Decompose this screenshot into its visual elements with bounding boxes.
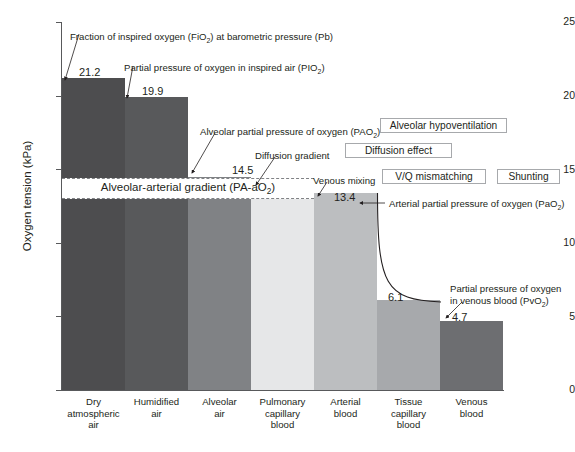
y-tick-0 (56, 390, 61, 391)
category-label-dry-atmospheric-air: Dry atmospheric air (62, 396, 125, 431)
bar-value-humidified-air: 19.9 (142, 85, 163, 97)
y-tick-15 (56, 169, 61, 170)
cause-box-vq-mismatching[interactable]: V/Q mismatching (382, 169, 486, 184)
cat-3-line1: Pulmonary (251, 396, 314, 408)
bar-value-venous-blood: 4.7 (452, 311, 467, 323)
bar-value-arterial-blood: 13.4 (334, 191, 355, 203)
annotation-diffusion-gradient: Diffusion gradient (255, 150, 330, 162)
cat-3-line2: capillary (251, 408, 314, 420)
annotation-pvo2-line2: in venous blood (PvO2) (450, 295, 549, 311)
y-tick-10 (56, 243, 61, 244)
category-label-venous-blood: Venous blood (440, 396, 503, 419)
cat-4-line1: Arterial (314, 396, 377, 408)
cat-3-line3: blood (251, 419, 314, 431)
bar-dry-atmospheric-air (62, 78, 125, 390)
bar-pulmonary-capillary-blood (251, 185, 314, 390)
cat-1-line1: Humidified (125, 396, 188, 408)
category-label-arterial-blood: Arterial blood (314, 396, 377, 419)
y-tick-label-25: 25 (529, 16, 575, 26)
cat-1-line2: air (125, 408, 188, 420)
cat-5-line1: Tissue (377, 396, 440, 408)
cause-box-alveolar-hypoventilation[interactable]: Alveolar hypoventilation (380, 118, 507, 133)
cat-2-line1: Alveolar (188, 396, 251, 408)
alveolar-arterial-gradient-label: Alveolar-arterial gradient (PA-aO2) (101, 181, 275, 196)
annotation-pvo2-line1: Partial pressure of oxygen (450, 283, 561, 295)
annotation-pio2: Partial pressure of oxygen in inspired a… (124, 62, 325, 78)
category-label-alveolar-air: Alveolar air (188, 396, 251, 419)
y-tick-20 (56, 96, 61, 97)
x-axis-line (61, 390, 504, 391)
cause-box-diffusion-effect[interactable]: Diffusion effect (345, 143, 452, 158)
bar-value-tissue-capillary-blood: 6.1 (388, 291, 403, 303)
alveolar-arterial-gradient-band: Alveolar-arterial gradient (PA-aO2) (62, 178, 314, 199)
category-label-tissue-capillary-blood: Tissue capillary blood (377, 396, 440, 431)
bar-value-dry-atmospheric-air: 21.2 (79, 66, 100, 78)
bar-arterial-blood (314, 193, 377, 390)
cat-5-line2: capillary (377, 408, 440, 420)
y-tick-label-0: 0 (529, 384, 575, 394)
bar-alveolar-air (188, 177, 251, 390)
annotation-pao2-arterial: Arterial partial pressure of oxygen (PaO… (389, 198, 565, 214)
y-tick-label-20: 20 (529, 90, 575, 100)
annotation-pao2-alveolar: Alveolar partial pressure of oxygen (PAO… (200, 126, 380, 142)
y-tick-label-5: 5 (529, 311, 575, 321)
bar-tissue-capillary-blood (377, 300, 440, 390)
y-tick-label-10: 10 (529, 237, 575, 247)
cat-5-line3: blood (377, 419, 440, 431)
cat-2-line2: air (188, 408, 251, 420)
bar-value-alveolar-air: 14.5 (232, 164, 253, 176)
category-label-pulmonary-capillary-blood: Pulmonary capillary blood (251, 396, 314, 431)
cat-6-line2: blood (440, 408, 503, 420)
cat-4-line2: blood (314, 408, 377, 420)
annotation-venous-mixing: Venous mixing (313, 175, 375, 187)
y-axis-title: Oxygen tension (kPa) (21, 96, 33, 296)
y-tick-5 (56, 316, 61, 317)
cat-6-line1: Venous (440, 396, 503, 408)
cat-0-line1: Dry (62, 396, 125, 408)
bar-humidified-air (125, 97, 188, 390)
category-label-humidified-air: Humidified air (125, 396, 188, 419)
annotation-fio2: Fraction of inspired oxygen (FiO2) at ba… (70, 31, 333, 47)
cat-0-line2: atmospheric (62, 408, 125, 420)
cause-box-shunting[interactable]: Shunting (497, 169, 560, 184)
cat-0-line3: air (62, 419, 125, 431)
bar-venous-blood (440, 321, 503, 390)
y-tick-25 (56, 22, 61, 23)
oxygen-cascade-figure: 25 20 15 10 5 0 Oxygen tension (kPa) 21.… (0, 0, 575, 452)
